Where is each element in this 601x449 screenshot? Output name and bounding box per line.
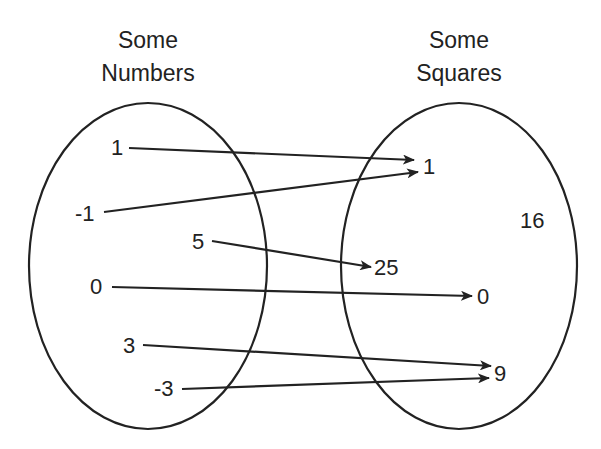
right-element-0: 0: [477, 286, 489, 308]
left-element-1: 1: [111, 137, 123, 159]
left-element-neg3: -3: [154, 378, 174, 400]
right-set-title-line1: Some: [359, 24, 559, 57]
left-set-title-line1: Some: [48, 24, 248, 57]
arrow-5-to-25: [212, 241, 371, 267]
arrow-neg3-to-9: [182, 378, 489, 389]
arrow-0-to-0: [112, 287, 472, 296]
left-element-3: 3: [123, 335, 135, 357]
right-element-1: 1: [423, 156, 435, 178]
left-element-5: 5: [192, 231, 204, 253]
arrow-1-to-1: [129, 148, 414, 160]
right-element-25: 25: [374, 257, 398, 279]
right-element-9: 9: [494, 363, 506, 385]
left-set-title: Some Numbers: [48, 24, 248, 90]
arrow-neg1-to-1: [104, 172, 418, 212]
arrow-3-to-9: [143, 345, 491, 366]
right-element-16: 16: [520, 210, 544, 232]
right-set-title: Some Squares: [359, 24, 559, 90]
right-set-title-line2: Squares: [359, 57, 559, 90]
left-element-neg1: -1: [75, 203, 95, 225]
left-set-title-line2: Numbers: [48, 57, 248, 90]
left-element-0: 0: [90, 276, 102, 298]
